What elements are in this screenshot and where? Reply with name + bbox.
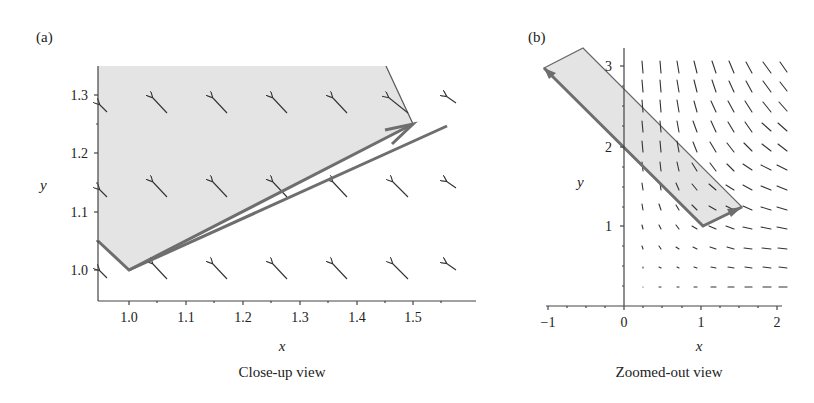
x-axis-label-a: x	[278, 338, 286, 354]
svg-text:1.4: 1.4	[348, 310, 366, 325]
x-ticks-b: −1 0 1 2	[541, 315, 781, 330]
x-ticks-a: 1.0 1.1 1.2 1.3 1.4 1.5	[120, 310, 422, 325]
panel-a: (a)	[36, 29, 476, 380]
x-axis-label-b: x	[695, 338, 703, 354]
svg-text:1.0: 1.0	[71, 263, 89, 278]
svg-text:1.2: 1.2	[71, 146, 89, 161]
y-axis-label-a: y	[38, 177, 47, 193]
svg-text:1.1: 1.1	[71, 205, 89, 220]
svg-text:−1: −1	[541, 315, 556, 330]
svg-text:1.3: 1.3	[291, 310, 309, 325]
svg-text:1.0: 1.0	[120, 310, 138, 325]
svg-text:2: 2	[774, 315, 781, 330]
figure-canvas: (a)	[0, 0, 814, 403]
y-axis-label-b: y	[575, 174, 584, 190]
svg-text:2: 2	[605, 140, 612, 155]
panel-b-label: (b)	[528, 29, 546, 46]
panel-a-label: (a)	[36, 29, 53, 46]
y-ticks-a: 1.3 1.2 1.1 1.0	[71, 88, 89, 278]
panel-b: (b)	[528, 29, 787, 380]
svg-text:1.1: 1.1	[177, 310, 195, 325]
shaded-region-a	[98, 66, 413, 270]
shaded-region-b	[544, 48, 742, 226]
svg-text:1.5: 1.5	[404, 310, 422, 325]
svg-text:0: 0	[621, 315, 628, 330]
caption-b: Zoomed-out view	[615, 364, 722, 380]
svg-text:1: 1	[698, 315, 705, 330]
svg-text:1: 1	[605, 219, 612, 234]
svg-text:1.2: 1.2	[234, 310, 252, 325]
svg-text:1.3: 1.3	[71, 88, 89, 103]
caption-a: Close-up view	[238, 364, 325, 380]
svg-text:3: 3	[605, 59, 612, 74]
